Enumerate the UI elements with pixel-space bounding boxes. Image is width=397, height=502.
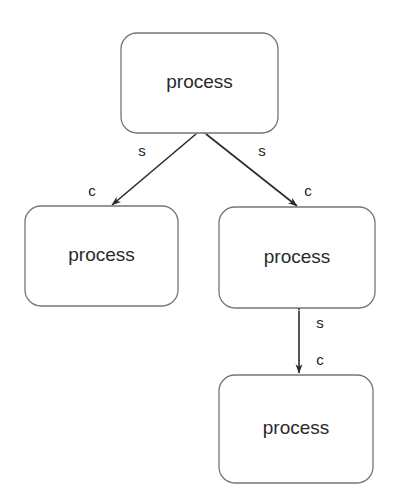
edge-label-right-bottom-s: s: [316, 314, 324, 331]
process-relationship-diagram: process process process process s c s c …: [0, 0, 397, 502]
node-label-bottom: process: [263, 417, 330, 438]
node-label-right: process: [264, 246, 331, 267]
edge-label-top-right-c: c: [304, 182, 312, 199]
edge-label-top-left-c: c: [88, 182, 96, 199]
node-process-right[interactable]: process: [219, 207, 375, 308]
node-process-bottom[interactable]: process: [219, 375, 373, 483]
node-process-top[interactable]: process: [121, 33, 278, 133]
edge-top-left: [112, 134, 196, 205]
node-process-left[interactable]: process: [25, 206, 178, 306]
nodes-group: process process process process: [25, 33, 375, 483]
diagram-canvas: process process process process s c s c …: [0, 0, 397, 502]
node-label-top: process: [166, 71, 233, 92]
edge-label-top-right-s: s: [258, 142, 266, 159]
edge-label-right-bottom-c: c: [316, 351, 324, 368]
edge-label-top-left-s: s: [138, 142, 146, 159]
edge-top-right: [206, 134, 297, 206]
node-label-left: process: [68, 244, 135, 265]
